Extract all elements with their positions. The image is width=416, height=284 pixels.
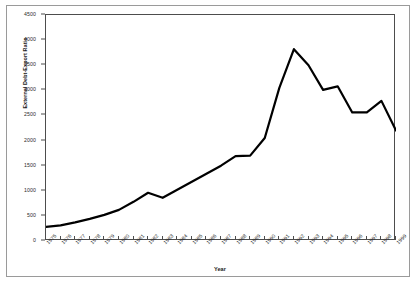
y-tick-label: 2500 [24, 111, 36, 117]
plot-area [45, 14, 395, 240]
y-tick-label: 2000 [24, 137, 36, 143]
y-tick-label: 4500 [24, 11, 36, 17]
y-tick-label: 0 [33, 237, 36, 243]
x-axis-title: Year [45, 266, 395, 272]
y-tick-label: 4000 [24, 36, 36, 42]
y-tick-label: 1000 [24, 187, 36, 193]
chart-figure: External Debt-Export Ratio 0500100015002… [0, 0, 416, 284]
y-tick-label: 500 [27, 212, 36, 218]
series-polyline [46, 49, 396, 227]
y-axis-tick-labels: 050010001500200025003000350040004500 [0, 14, 41, 240]
y-tick-label: 1500 [24, 162, 36, 168]
y-tick-label: 3000 [24, 86, 36, 92]
x-axis-tick-labels: 1975197619771978197919801981198219831984… [45, 241, 395, 265]
y-tick-label: 3500 [24, 61, 36, 67]
line-series-external-debt-export-ratio [46, 15, 396, 241]
